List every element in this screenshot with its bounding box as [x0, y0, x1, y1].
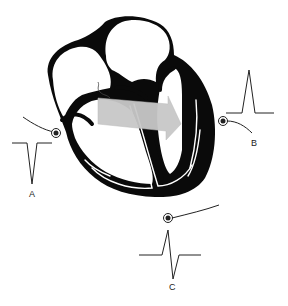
lead-a-wire [23, 117, 54, 132]
lead-c-trace [139, 230, 201, 279]
lead-c-label: C [169, 283, 176, 292]
lead-a-electrode-core [54, 131, 59, 136]
lead-a [12, 117, 61, 184]
lead-b-label: B [251, 139, 257, 148]
heart-diagram [0, 0, 288, 306]
lead-b [219, 70, 275, 133]
lead-b-wire [227, 121, 252, 133]
lead-b-trace [226, 70, 274, 113]
lead-a-trace [12, 143, 52, 184]
lead-a-label: A [29, 190, 35, 199]
lead-c-wire [172, 205, 219, 218]
lead-b-electrode-core [221, 119, 226, 124]
lead-c-electrode-core [166, 216, 171, 221]
lead-c [139, 205, 219, 279]
